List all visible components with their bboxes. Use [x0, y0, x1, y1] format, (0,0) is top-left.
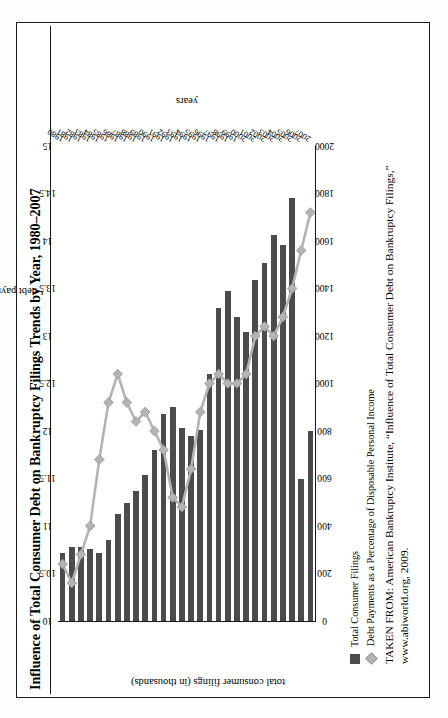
y-tick-left-200: 200 [317, 568, 331, 579]
line-marker-1980 [58, 559, 68, 569]
line-marker-1994 [186, 464, 196, 474]
y-tick-left-800: 800 [317, 426, 331, 437]
line-marker-1984 [94, 455, 104, 465]
y-tick-left-1000: 1000 [315, 378, 334, 389]
y-tick-left-1600: 1600 [315, 236, 334, 247]
legend-label: Debt Payments as a Percentage of Disposa… [364, 389, 378, 646]
line-marker-1983 [85, 521, 95, 531]
y-axis-left-title-text: total consumer filings (in thousands) [58, 677, 358, 688]
source-line-2: www.abiworld.org, 2009. [397, 64, 412, 664]
line-marker-2004 [278, 312, 288, 322]
y-tick-right-13: 13 [43, 331, 53, 342]
y-tick-right-13.5: 13.5 [39, 283, 56, 294]
line-marker-1986 [113, 369, 123, 379]
rotated-figure-content: Influence of Total Consumer Debt on Bank… [18, 24, 428, 696]
y-tick-right-11.5: 11.5 [39, 473, 55, 484]
figure-frame: Influence of Total Consumer Debt on Bank… [16, 22, 430, 698]
y-tick-left-400: 400 [317, 521, 331, 532]
y-tick-left-600: 600 [317, 473, 331, 484]
line-path [63, 213, 311, 584]
line-marker-2006 [296, 246, 306, 256]
line-marker-1991 [159, 445, 169, 455]
y-tick-right-10.5: 10.5 [39, 568, 56, 579]
legend-item-total-consumer-filings: Total Consumer Filings [348, 104, 362, 664]
y-tick-left-1400: 1400 [315, 283, 334, 294]
line-marker-1985 [104, 398, 114, 408]
y-tick-left-1200: 1200 [315, 331, 334, 342]
page-title: Influence of Total Consumer Debt on Bank… [22, 24, 48, 696]
plot-area: 0200400600800100012001400160018002000101… [58, 146, 316, 622]
y-tick-right-12: 12 [43, 426, 53, 437]
source-line-1: TAKEN FROM: American Bankruptcy Institut… [382, 64, 397, 664]
figure-page: Influence of Total Consumer Debt on Bank… [0, 0, 448, 718]
y-tick-right-11: 11 [43, 521, 52, 532]
source-attribution: TAKEN FROM: American Bankruptcy Institut… [382, 64, 412, 664]
legend-item-debt-payments: Debt Payments as a Percentage of Disposa… [364, 104, 378, 664]
x-axis-title: years [175, 96, 197, 107]
legend-label: Total Consumer Filings [348, 551, 362, 647]
y-tick-right-14.5: 14.5 [39, 188, 56, 199]
y-tick-left-1800: 1800 [315, 188, 334, 199]
y-axis-left-title: total consumer filings (in thousands) [0, 674, 58, 688]
line-marker-2007 [306, 208, 316, 218]
y-tick-right-12.5: 12.5 [39, 378, 56, 389]
square-swatch-icon [350, 654, 360, 664]
line-marker-2005 [287, 284, 297, 294]
y-tick-right-15: 15 [43, 141, 53, 152]
y-tick-left-0: 0 [322, 616, 327, 627]
diamond-swatch-icon [366, 653, 377, 664]
line-marker-1995 [195, 407, 205, 417]
y-tick-right-10: 10 [43, 616, 53, 627]
chart-legend: Total Consumer Filings Debt Payments as … [348, 104, 380, 664]
line-series-debt-payments [58, 146, 315, 621]
line-marker-1987 [122, 398, 132, 408]
line-marker-1981 [67, 578, 77, 588]
line-marker-1982 [76, 550, 86, 560]
y-tick-left-2000: 2000 [315, 141, 334, 152]
y-tick-right-14: 14 [43, 236, 53, 247]
line-marker-1990 [150, 426, 160, 436]
chart-container: total consumer filings (in thousands) de… [58, 106, 358, 666]
